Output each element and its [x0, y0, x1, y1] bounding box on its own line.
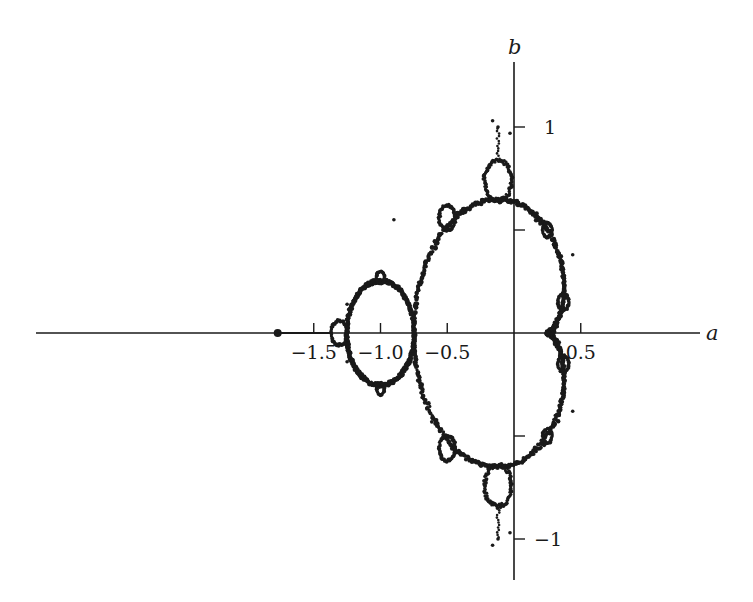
x-axis-label: a: [706, 321, 719, 345]
plot-area: −1.5−1.0−0.50.5 1−1 a b: [0, 0, 753, 602]
x-tick-label: 0.5: [566, 341, 596, 363]
y-axis-label: b: [508, 35, 521, 59]
mandelbrot-figure: −1.5−1.0−0.50.5 1−1 a b: [0, 0, 753, 602]
x-tick-label: −1.5: [291, 341, 337, 363]
x-tick-label: −1.0: [357, 341, 403, 363]
x-tick-label: −0.5: [424, 341, 470, 363]
y-tick-label: 1: [544, 116, 556, 138]
y-tick-label: −1: [534, 528, 562, 550]
